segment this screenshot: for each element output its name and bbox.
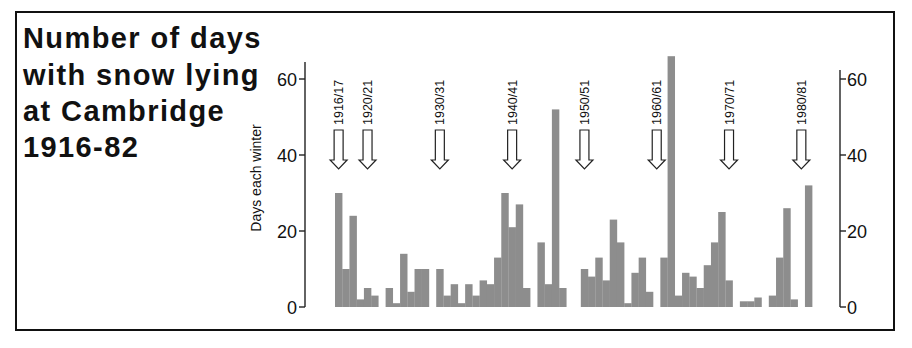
down-arrow-icon [431, 130, 448, 169]
bar-1972-73 [740, 301, 747, 307]
bar-1976-77 [769, 296, 776, 307]
snow-days-chart: Number of days with snow lying at Cambri… [0, 0, 912, 348]
bar-1937-38 [487, 284, 494, 307]
bar-1974-75 [754, 298, 761, 308]
left-tick-label: 0 [287, 298, 297, 318]
bar-1966-67 [697, 288, 704, 307]
bar-1926-27 [407, 292, 414, 307]
bar-1933-34 [458, 303, 465, 307]
bar-1921-22 [371, 296, 378, 307]
bar-1967-68 [704, 265, 711, 307]
bar-1931-32 [443, 296, 450, 307]
decade-marker-label: 1920/21 [361, 80, 375, 125]
bar-1977-78 [776, 258, 783, 307]
title-line-4: 1916-82 [23, 131, 139, 163]
y-axis-title: Days each winter [248, 124, 264, 232]
down-arrow-icon [359, 130, 376, 169]
decade-marker-1970-71: 1970/71 [721, 80, 738, 169]
bar-1935-36 [472, 296, 479, 307]
bar-1953-54 [603, 280, 610, 307]
bar-1957-58 [631, 273, 638, 307]
bar-1951-52 [588, 277, 595, 307]
bar-1930-31 [436, 269, 443, 307]
bar-1955-56 [617, 242, 624, 307]
bar-1927-28 [415, 269, 422, 307]
right-tick-label: 0 [847, 298, 857, 318]
bar-1947-48 [559, 288, 566, 307]
bar-1942-43 [523, 288, 530, 307]
bar-1979-80 [790, 299, 797, 307]
decade-marker-label: 1970/71 [723, 80, 737, 125]
right-tick-label: 40 [847, 146, 867, 166]
left-tick-label: 40 [277, 146, 297, 166]
left-tick-label: 60 [277, 70, 297, 90]
decade-marker-1930-31: 1930/31 [431, 80, 448, 169]
bar-1968-69 [711, 242, 718, 307]
bar-1920-21 [364, 288, 371, 307]
decade-marker-label: 1950/51 [578, 80, 592, 125]
title-line-2: with snow lying [22, 59, 260, 91]
decade-marker-1920-21: 1920/21 [359, 80, 376, 169]
bar-1918-19 [349, 216, 356, 307]
bar-1956-57 [624, 303, 631, 307]
bar-1934-35 [465, 284, 472, 307]
bar-1950-51 [581, 269, 588, 307]
down-arrow-icon [576, 130, 593, 169]
bar-1969-70 [718, 212, 725, 307]
decade-marker-label: 1930/31 [433, 80, 447, 125]
bar-1959-60 [646, 292, 653, 307]
down-arrow-icon [793, 130, 810, 169]
bar-1939-40 [501, 193, 508, 307]
right-tick-label: 60 [847, 70, 867, 90]
decade-marker-label: 1980/81 [795, 80, 809, 125]
chart-title: Number of days with snow lying at Cambri… [22, 22, 262, 163]
decade-marker-label: 1916/17 [332, 80, 346, 125]
down-arrow-icon [721, 130, 738, 169]
title-line-1: Number of days [23, 22, 262, 54]
bar-1973-74 [747, 301, 754, 307]
down-arrow-icon [330, 130, 347, 169]
bar-1978-79 [783, 208, 790, 307]
bar-1981-82 [805, 185, 812, 307]
decade-marker-1980-81: 1980/81 [793, 80, 810, 169]
bar-1917-18 [342, 269, 349, 307]
bar-1963-64 [675, 296, 682, 307]
left-y-axis: 0204060 [277, 62, 305, 318]
decade-marker-1960-61: 1960/61 [648, 80, 665, 169]
down-arrow-icon [504, 130, 521, 169]
decade-marker-1916-17: 1916/17 [330, 80, 347, 169]
bar-1946-47 [552, 109, 559, 307]
bar-1970-71 [725, 280, 732, 307]
bar-1945-46 [545, 284, 552, 307]
bar-1940-41 [509, 227, 516, 307]
bar-1961-62 [660, 258, 667, 307]
bar-1923-24 [386, 288, 393, 307]
bar-1941-42 [516, 204, 523, 307]
decade-marker-1940-41: 1940/41 [504, 80, 521, 169]
bar-1964-65 [682, 273, 689, 307]
bar-1965-66 [689, 277, 696, 307]
decade-marker-1950-51: 1950/51 [576, 80, 593, 169]
bar-1932-33 [451, 284, 458, 307]
bar-series [335, 56, 812, 307]
bar-1924-25 [393, 303, 400, 307]
right-tick-label: 20 [847, 222, 867, 242]
decade-marker-label: 1960/61 [650, 80, 664, 125]
left-tick-label: 20 [277, 222, 297, 242]
decade-markers: 1916/171920/211930/311940/411950/511960/… [330, 80, 810, 169]
right-y-axis: 0204060 [840, 70, 867, 318]
bar-1938-39 [494, 258, 501, 307]
bar-1925-26 [400, 254, 407, 307]
bar-1944-45 [537, 242, 544, 307]
bar-1928-29 [422, 269, 429, 307]
bar-1962-63 [668, 56, 675, 307]
bar-1952-53 [595, 258, 602, 307]
bar-1954-55 [610, 220, 617, 307]
bar-1919-20 [357, 299, 364, 307]
bar-1936-37 [480, 280, 487, 307]
bar-1958-59 [639, 258, 646, 307]
decade-marker-label: 1940/41 [506, 80, 520, 125]
down-arrow-icon [648, 130, 665, 169]
title-line-3: at Cambridge [23, 95, 225, 127]
bar-1916-17 [335, 193, 342, 307]
